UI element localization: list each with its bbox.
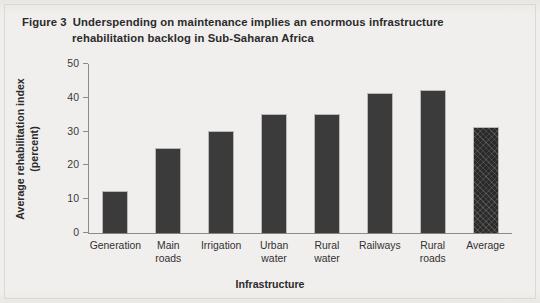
figure-title-line2: rehabilitation backlog in Sub-Saharan Af… [22, 30, 502, 46]
bar-slot [195, 64, 248, 233]
y-tick-mark [83, 63, 88, 64]
x-tick-label-generation: Generation [89, 239, 142, 265]
x-tick-label-line: Irrigation [195, 239, 248, 252]
x-axis-tick-labels: GenerationMainroadsIrrigationUrbanwaterR… [89, 239, 512, 265]
y-tick-mark [83, 198, 88, 199]
y-tick-mark [83, 97, 88, 98]
x-tick-label-rural-water: Ruralwater [301, 239, 354, 265]
x-tick-label-line: Railways [353, 239, 406, 252]
bar-slot [142, 64, 195, 233]
plot-area: 01020304050 [88, 64, 512, 234]
y-tick-mark [83, 131, 88, 132]
x-tick-label-line: Urban [248, 239, 301, 252]
x-tick-label-line: water [248, 252, 301, 265]
figure-title: Figure 3Underspending on maintenance imp… [22, 14, 502, 46]
y-tick-label: 40 [67, 91, 79, 103]
x-tick-label-line: Rural [301, 239, 354, 252]
bar-average [474, 128, 498, 233]
x-tick-label-line: Average [459, 239, 512, 252]
x-tick-label-line: roads [406, 252, 459, 265]
bar-rural-roads [421, 91, 445, 233]
bar-slot [406, 64, 459, 233]
x-tick-label-railways: Railways [353, 239, 406, 265]
x-tick-label-rural-roads: Ruralroads [406, 239, 459, 265]
bar-slot [353, 64, 406, 233]
figure-panel: Figure 3Underspending on maintenance imp… [0, 0, 540, 303]
bar-slot [89, 64, 142, 233]
bar-series [89, 64, 512, 233]
y-axis-title-line1: Average rehabilitation index [13, 78, 27, 219]
x-axis-title: Infrastructure [0, 278, 540, 290]
bar-slot [248, 64, 301, 233]
x-tick-label-line: Rural [406, 239, 459, 252]
bar-main-roads [156, 149, 180, 234]
x-tick-label-main-roads: Mainroads [142, 239, 195, 265]
y-tick-label: 50 [67, 57, 79, 69]
bar-railways [368, 94, 392, 233]
x-tick-label-urban-water: Urbanwater [248, 239, 301, 265]
figure-title-line1: Underspending on maintenance implies an … [73, 16, 444, 28]
bar-irrigation [209, 132, 233, 233]
x-axis-line [88, 233, 512, 234]
y-tick-label: 20 [67, 158, 79, 170]
y-axis-title-line2: (percent) [27, 78, 41, 219]
x-tick-label-irrigation: Irrigation [195, 239, 248, 265]
x-tick-label-line: water [301, 252, 354, 265]
y-tick-label: 10 [67, 192, 79, 204]
figure-number: Figure 3 [22, 16, 67, 28]
bar-slot [459, 64, 512, 233]
y-tick-label: 0 [73, 226, 79, 238]
x-tick-label-line: Generation [89, 239, 142, 252]
x-tick-label-line: Main [142, 239, 195, 252]
x-tick-label-average: Average [459, 239, 512, 265]
y-tick-label: 30 [67, 125, 79, 137]
bar-rural-water [315, 115, 339, 233]
bar-slot [301, 64, 354, 233]
y-tick-mark [83, 232, 88, 233]
bar-generation [103, 192, 127, 233]
y-axis-title: Average rehabilitation index (percent) [10, 64, 44, 234]
bar-urban-water [262, 115, 286, 233]
x-tick-label-line: roads [142, 252, 195, 265]
y-tick-mark [83, 164, 88, 165]
